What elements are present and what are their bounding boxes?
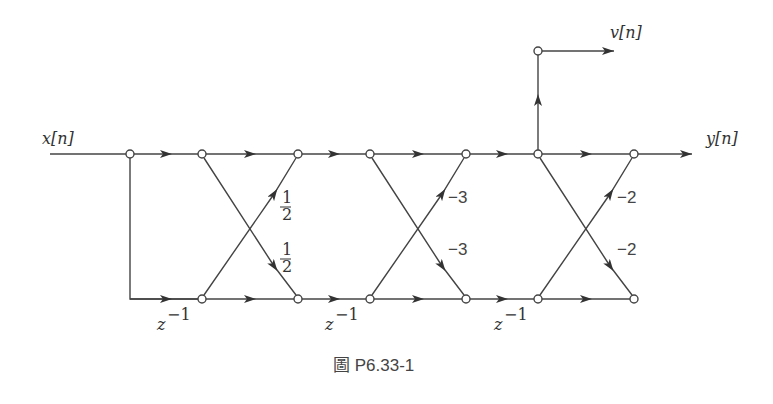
node — [630, 150, 638, 158]
svg-text:−1: −1 — [335, 305, 359, 324]
node — [534, 47, 542, 55]
svg-text:z: z — [156, 315, 166, 334]
signal-flow-graph: x[n] y[n] v[n] 1 2 1 2 −3 −3 −2 −2 z −1 … — [0, 0, 773, 404]
node — [198, 295, 206, 303]
node — [126, 150, 134, 158]
output-v-label: v[n] — [610, 23, 643, 42]
svg-text:z: z — [324, 315, 334, 334]
gain-stage2-lower: −3 — [448, 240, 467, 259]
node — [366, 295, 374, 303]
node — [294, 150, 302, 158]
node — [534, 295, 542, 303]
node — [462, 295, 470, 303]
output-y-label: y[n] — [705, 129, 739, 148]
svg-text:2: 2 — [282, 205, 292, 224]
node — [630, 295, 638, 303]
node — [462, 150, 470, 158]
delay-label-2: z −1 — [324, 305, 359, 334]
gain-stage1-lower: 1 2 — [280, 240, 292, 276]
node — [534, 150, 542, 158]
gain-stage1-upper: 1 2 — [280, 188, 292, 224]
svg-text:z: z — [493, 315, 503, 334]
gain-stage3-lower: −2 — [617, 240, 636, 259]
svg-text:−1: −1 — [167, 305, 191, 324]
svg-text:−1: −1 — [504, 305, 528, 324]
branches — [50, 51, 692, 299]
node — [198, 150, 206, 158]
gain-stage2-upper: −3 — [448, 188, 467, 207]
node — [366, 150, 374, 158]
delay-label-3: z −1 — [493, 305, 528, 334]
gain-stage3-upper: −2 — [617, 188, 636, 207]
svg-text:2: 2 — [282, 257, 292, 276]
node — [294, 295, 302, 303]
input-label: x[n] — [42, 129, 75, 148]
figure-caption: 圖 P6.33-1 — [333, 356, 414, 375]
delay-label-1: z −1 — [156, 305, 191, 334]
